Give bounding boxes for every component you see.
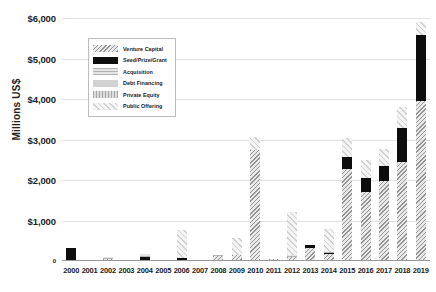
bar-stack xyxy=(232,238,242,261)
legend: Venture CapitalSeed/Prize/GrantAcquisiti… xyxy=(88,38,176,117)
bar-segment xyxy=(416,101,426,261)
bar-segment xyxy=(416,35,426,100)
bar-stack xyxy=(250,137,260,261)
bar-segment xyxy=(397,162,407,261)
x-axis-tick-label: 2003 xyxy=(118,266,134,275)
bar-segment xyxy=(361,192,371,261)
x-axis-baseline xyxy=(62,260,430,261)
bar-segment xyxy=(66,248,76,261)
bar-segment xyxy=(342,138,352,158)
legend-swatch-icon xyxy=(93,57,118,64)
x-axis-tick-label: 2008 xyxy=(210,266,226,275)
bar-stack xyxy=(379,149,389,261)
y-axis-tick-label: $6,000 xyxy=(0,13,56,24)
bar-segment xyxy=(287,212,297,255)
legend-swatch-icon xyxy=(93,91,118,98)
gridline xyxy=(62,18,430,19)
legend-item[interactable]: Public Offering xyxy=(93,101,171,113)
x-axis-tick-label: 2018 xyxy=(394,266,410,275)
bar-segment xyxy=(232,238,242,255)
x-axis-tick-label: 2014 xyxy=(321,266,337,275)
legend-item-label: Venture Capital xyxy=(123,46,163,52)
legend-item-label: Seed/Prize/Grant xyxy=(123,57,167,63)
y-axis-title: Millions US$ xyxy=(11,50,22,170)
bar-stack xyxy=(397,107,407,261)
x-axis-tick-label: 2017 xyxy=(376,266,392,275)
legend-item-label: Debt Financing xyxy=(123,80,163,86)
bar-segment xyxy=(342,169,352,261)
gridline xyxy=(62,221,430,222)
x-axis-tick-label: 2011 xyxy=(266,266,281,275)
y-axis-tick-label: 0 xyxy=(0,258,56,264)
legend-swatch-icon xyxy=(93,103,118,110)
legend-item-label: Public Offering xyxy=(123,103,162,109)
legend-item-label: Private Equity xyxy=(123,92,160,98)
x-axis-tick-label: 2012 xyxy=(284,266,300,275)
bar-segment xyxy=(361,160,371,178)
x-axis-tick-label: 2015 xyxy=(339,266,355,275)
bar-segment xyxy=(177,230,187,258)
stacked-bar-chart: Millions US$ 0$1,000$2,000$3,000$4,000$5… xyxy=(0,0,436,292)
gridline xyxy=(62,140,430,141)
x-axis-tick-label: 2009 xyxy=(229,266,245,275)
bar-segment xyxy=(397,128,407,162)
legend-swatch-icon xyxy=(93,68,118,75)
bar-segment xyxy=(379,149,389,166)
bar-segment xyxy=(379,181,389,261)
x-axis-tick-label: 2019 xyxy=(413,266,429,275)
bar-segment xyxy=(250,150,260,261)
bar-stack xyxy=(287,212,297,261)
x-axis-tick-label: 2016 xyxy=(358,266,374,275)
bar-segment xyxy=(324,229,334,252)
legend-swatch-icon xyxy=(93,80,118,87)
legend-item-label: Acquisition xyxy=(123,69,153,75)
legend-swatch-icon xyxy=(93,45,118,52)
legend-item[interactable]: Venture Capital xyxy=(93,43,171,55)
y-axis-tick-label: $5,000 xyxy=(0,53,56,64)
bar-segment xyxy=(397,107,407,128)
bar-stack xyxy=(416,22,426,261)
bar-stack xyxy=(361,160,371,261)
x-axis-tick-label: 2000 xyxy=(63,266,79,275)
x-axis-tick-label: 2006 xyxy=(174,266,190,275)
bar-stack xyxy=(177,230,187,261)
y-axis-tick-label: $2,000 xyxy=(0,175,56,186)
bar-segment xyxy=(379,166,389,181)
x-axis-tick-label: 2007 xyxy=(192,266,208,275)
bar-segment xyxy=(342,157,352,169)
bar-segment xyxy=(250,137,260,149)
legend-item[interactable]: Seed/Prize/Grant xyxy=(93,55,171,67)
x-axis-tick-label: 2010 xyxy=(247,266,263,275)
bar-stack xyxy=(324,229,334,261)
x-axis-tick-label: 2013 xyxy=(302,266,318,275)
bar-stack xyxy=(66,248,76,261)
x-axis-tick-label: 2005 xyxy=(155,266,171,275)
gridline xyxy=(62,180,430,181)
legend-item[interactable]: Private Equity xyxy=(93,89,171,101)
bar-stack xyxy=(305,245,315,261)
y-axis-tick-label: $4,000 xyxy=(0,94,56,105)
y-axis-tick-label: $1,000 xyxy=(0,215,56,226)
bar-stack xyxy=(342,138,352,262)
x-axis-tick-label: 2001 xyxy=(82,266,98,275)
y-axis-tick-label: $3,000 xyxy=(0,134,56,145)
legend-item[interactable]: Debt Financing xyxy=(93,78,171,90)
bar-segment xyxy=(416,22,426,35)
bar-segment xyxy=(361,178,371,193)
legend-item[interactable]: Acquisition xyxy=(93,66,171,78)
x-axis-tick-label: 2004 xyxy=(137,266,153,275)
x-axis-tick-label: 2002 xyxy=(100,266,116,275)
bar-segment xyxy=(305,248,315,261)
